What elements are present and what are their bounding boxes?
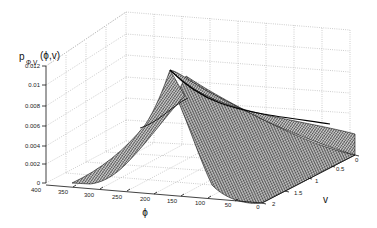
phi-tick-label: 200 <box>140 196 151 202</box>
phi-axis-label: ϕ <box>142 207 148 218</box>
phi-tick-label: 100 <box>195 200 206 206</box>
z-tick-label: 0.004 <box>25 143 41 149</box>
phi-tick-label: 400 <box>31 187 42 193</box>
v-axis-label: v <box>323 194 328 205</box>
z-axis: 0.012 0.01 0.008 0.006 0.004 0.002 0 <box>25 63 46 186</box>
z-label-args: (ϕ,v) <box>40 50 60 61</box>
surface-mesh <box>72 70 355 203</box>
z-label-subscript: Φ,V <box>26 59 38 66</box>
v-tick-label: 2 <box>272 201 276 207</box>
v-tick-label: 1.5 <box>294 190 303 196</box>
phi-tick-label: 350 <box>58 189 69 195</box>
z-label-main: p <box>19 51 25 62</box>
phi-tick-label: 0 <box>256 204 260 210</box>
z-tick-label: 0 <box>37 180 41 186</box>
z-tick-label: 0.002 <box>25 161 41 167</box>
z-tick-label: 0.006 <box>25 123 41 129</box>
phi-tick-label: 300 <box>84 192 95 198</box>
phi-tick-label: 250 <box>112 194 123 200</box>
phi-tick-label: 150 <box>167 198 178 204</box>
v-tick-label: 0.5 <box>336 166 345 172</box>
surface-plot: 0.012 0.01 0.008 0.006 0.004 0.002 0 p Φ… <box>0 0 377 228</box>
phi-tick-label: 50 <box>225 202 232 208</box>
z-tick-label: 0.01 <box>28 82 40 88</box>
z-tick-label: 0.008 <box>25 103 41 109</box>
v-tick-label: 0 <box>355 157 359 163</box>
v-tick-label: 1 <box>315 178 319 184</box>
